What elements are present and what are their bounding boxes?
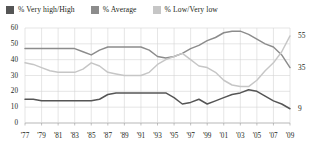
x-axis-tick-label: '93 [149, 132, 167, 140]
legend-item-average: % Average [91, 6, 137, 14]
x-axis-tick-label: '95 [165, 132, 183, 140]
y-axis-tick-label: 10 [2, 103, 18, 111]
x-axis-tick-label: '89 [115, 132, 133, 140]
legend-label-very-high-high: % Very high/High [18, 6, 75, 14]
chart-legend: % Very high/High % Average % Low/Very lo… [6, 3, 218, 16]
chart-root: % Very high/High % Average % Low/Very lo… [0, 0, 318, 147]
end-label-low-very-low: 55 [298, 32, 305, 40]
x-axis-tick-label: '05 [248, 132, 266, 140]
legend-swatch-icon [91, 6, 99, 14]
x-axis-tick-label: '09 [281, 132, 299, 140]
end-label-very-high: 9 [298, 105, 302, 113]
legend-label-low-very-low: % Low/Very low [165, 6, 218, 14]
y-axis-tick-label: 60 [2, 24, 18, 32]
legend-item-very-high-high: % Very high/High [6, 6, 75, 14]
x-axis-tick-label: '79 [33, 132, 51, 140]
x-axis-tick-label: '85 [82, 132, 100, 140]
y-axis-tick-label: 20 [2, 87, 18, 95]
axis-ticks [25, 123, 290, 126]
end-label-average: 35 [298, 64, 305, 72]
line-chart-svg [0, 20, 318, 128]
legend-item-low-very-low: % Low/Very low [153, 6, 218, 14]
x-axis-tick-label: '03 [231, 132, 249, 140]
x-axis-tick-label: '83 [66, 132, 84, 140]
x-axis-tick-label: '07 [264, 132, 282, 140]
y-axis-tick-label: 0 [2, 119, 18, 127]
grid-lines [25, 28, 290, 123]
legend-label-average: % Average [103, 6, 137, 14]
x-axis-tick-label: '81 [49, 132, 67, 140]
x-axis-tick-label: '01 [215, 132, 233, 140]
y-axis-tick-label: 40 [2, 56, 18, 64]
plot-area: 0102030405060 55359 [0, 20, 318, 128]
x-axis-tick-label: '99 [198, 132, 216, 140]
y-axis-tick-label: 30 [2, 72, 18, 80]
y-axis-tick-label: 50 [2, 40, 18, 48]
x-axis-tick-label: '97 [182, 132, 200, 140]
legend-swatch-icon [153, 6, 161, 14]
legend-swatch-icon [6, 6, 14, 14]
x-axis-tick-label: '77 [16, 132, 34, 140]
x-axis-tick-label: '87 [99, 132, 117, 140]
x-axis-tick-label: '91 [132, 132, 150, 140]
